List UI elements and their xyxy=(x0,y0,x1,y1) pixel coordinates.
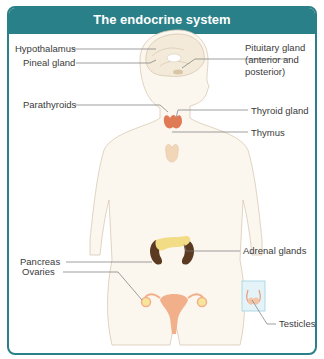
label-pineal-gland: Pineal gland xyxy=(23,57,75,69)
label-thyroid-gland: Thyroid gland xyxy=(251,105,309,117)
ovary-left xyxy=(142,298,151,307)
testicles-inset xyxy=(242,281,265,311)
label-adrenal-glands: Adrenal glands xyxy=(243,245,306,257)
label-pituitary-line3: posterior) xyxy=(245,66,285,78)
label-pituitary-line2: (anterior and xyxy=(245,54,299,66)
label-testicles: Testicles xyxy=(279,318,315,330)
label-ovaries: Ovaries xyxy=(22,266,55,278)
label-hypothalamus: Hypothalamus xyxy=(15,43,76,55)
label-pituitary-line1: Pituitary gland xyxy=(245,42,305,54)
label-thymus: Thymus xyxy=(251,127,285,139)
label-parathyroids: Parathyroids xyxy=(23,99,76,111)
thyroid xyxy=(164,115,182,128)
ovary-right xyxy=(198,298,207,307)
